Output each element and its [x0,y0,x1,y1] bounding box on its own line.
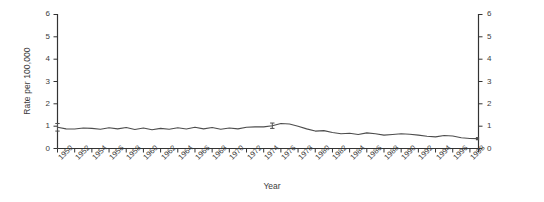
y-tick-label-left-2: 2 [36,100,50,108]
y-tick-label-left-5: 5 [36,33,50,41]
y-tick-label-left-0: 0 [36,145,50,153]
y-tick-label-left-6: 6 [36,10,50,18]
y-tick-label-left-1: 1 [36,122,50,130]
y-tick-label-right-0: 0 [487,145,501,153]
y-tick-label-right-3: 3 [487,78,501,86]
y-tick-label-right-4: 4 [487,55,501,63]
y-tick-label-left-3: 3 [36,78,50,86]
y-tick-label-left-4: 4 [36,55,50,63]
error-bars [55,123,274,131]
x-axis-label: Year [0,181,544,191]
y-tick-label-right-2: 2 [487,100,501,108]
y-tick-label-right-5: 5 [487,33,501,41]
y-tick-label-right-6: 6 [487,10,501,18]
line-chart-plot [0,0,544,202]
series-end-marker [476,137,479,140]
y-tick-label-right-1: 1 [487,122,501,130]
rate-trend-line [58,123,479,138]
chart-figure: Rate per 100,000 [0,0,544,202]
